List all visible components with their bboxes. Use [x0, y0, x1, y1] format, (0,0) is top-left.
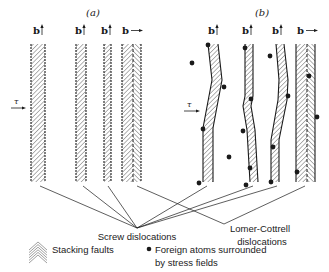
screw-dislocation	[243, 44, 258, 182]
burgers-vectors: bbbbbbbb	[33, 24, 318, 36]
stacking-fault-swatch-icon	[29, 242, 47, 263]
burgers-vector-up: b	[33, 24, 44, 36]
foreign-atom-legend-icon	[147, 247, 152, 252]
stacking-fault-region	[76, 44, 86, 182]
stacking-fault-region	[133, 44, 141, 182]
foreign-atom-dot	[269, 180, 274, 185]
leader-line-screw	[137, 186, 253, 228]
shear-stress-symbol: τ	[14, 97, 19, 106]
foreign-atom-dot	[248, 166, 253, 171]
burgers-vector-up: b	[75, 24, 86, 36]
burgers-vector-symbol: b	[122, 25, 129, 36]
foreign-atom-dot	[249, 97, 254, 102]
foreign-atom-dot	[268, 54, 273, 59]
panel-b: (b)	[255, 7, 269, 18]
leader-line-screw	[137, 186, 207, 228]
foreign-atom-dot	[227, 155, 232, 160]
shear-stress-arrow-icon: τ	[11, 97, 26, 110]
foreign-atom-dot	[315, 115, 320, 120]
legend-foreign-atoms-line2: by stress fields	[155, 257, 218, 268]
burgers-vector-symbol: b	[242, 25, 249, 36]
leader-lines	[40, 186, 305, 228]
foreign-atom-dot	[190, 61, 195, 66]
burgers-vector-symbol: b	[297, 25, 304, 36]
foreign-atom-dot	[295, 170, 300, 175]
leader-line-screw	[83, 186, 137, 228]
lomer-cottrell-dislocation	[122, 44, 141, 182]
burgers-vector-right: b	[297, 25, 318, 36]
burgers-vector-symbol: b	[272, 25, 279, 36]
burgers-vector-symbol: b	[208, 25, 215, 36]
legend-foreign-atoms-line1: Foreign atoms surrounded	[155, 244, 266, 255]
burgers-vector-up: b	[242, 24, 253, 36]
panel-a: (a)	[86, 7, 100, 18]
foreign-atom-dot	[307, 74, 312, 79]
legend-stacking-faults-label: Stacking faults	[52, 244, 114, 255]
burgers-vector-symbol: b	[101, 25, 108, 36]
stacking-fault-region	[104, 44, 111, 182]
stacking-fault-region	[296, 44, 307, 182]
foreign-atom-dot	[197, 181, 202, 186]
foreign-atom-dot	[222, 85, 227, 90]
legend: Stacking faults Foreign atoms surrounded…	[29, 242, 266, 268]
lomer-cottrell-dislocation	[296, 44, 315, 182]
leader-line-screw	[137, 186, 277, 228]
foreign-atom-dot	[271, 145, 276, 150]
burgers-vector-symbol: b	[75, 25, 82, 36]
stacking-fault-region	[122, 44, 133, 182]
burgers-vector-symbol: b	[33, 25, 40, 36]
foreign-atom-dot	[241, 129, 246, 134]
screw-dislocation	[104, 44, 111, 182]
leader-line-lomer-cottrell	[224, 186, 305, 224]
panel-b-label: (b)	[255, 7, 269, 18]
burgers-vector-up: b	[101, 24, 112, 36]
screw-dislocations-label: Screw dislocations	[98, 231, 177, 242]
foreign-atom-dot	[243, 46, 248, 51]
dislocation-strips	[31, 44, 315, 182]
stacking-fault-region	[31, 44, 45, 182]
dislocation-diagram: (a) (b) bbbbbbbb ττ Screw dislocations L…	[0, 0, 329, 272]
screw-dislocation	[31, 44, 45, 182]
screw-dislocation	[76, 44, 86, 182]
foreign-atom-dot	[244, 183, 249, 188]
panel-a-label: (a)	[86, 7, 100, 18]
foreign-atom-dot	[286, 94, 291, 99]
burgers-vector-up: b	[208, 24, 219, 36]
foreign-atom-dot	[201, 127, 206, 132]
shear-stress-symbol: τ	[187, 100, 192, 109]
screw-dislocation	[271, 44, 288, 182]
burgers-vector-up: b	[272, 24, 283, 36]
screw-dislocation	[203, 44, 222, 182]
burgers-vector-right: b	[122, 25, 143, 36]
foreign-atom-dot	[206, 43, 211, 48]
stacking-fault-region	[307, 44, 315, 182]
shear-stress-arrow-icon: τ	[184, 100, 200, 113]
leader-line-lomer-cottrell	[137, 186, 224, 224]
lomer-cottrell-label-line1: Lomer-Cottrell	[230, 223, 290, 234]
